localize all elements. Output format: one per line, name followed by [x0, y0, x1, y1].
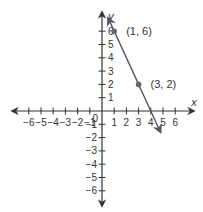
x-axis-label: x	[190, 96, 197, 108]
y-tick-label: −4	[86, 159, 98, 170]
x-tick-label: −4	[47, 117, 59, 128]
y-tick-label: −2	[86, 132, 98, 143]
x-tick-label: −2	[72, 117, 84, 128]
x-tick-label: 2	[124, 117, 130, 128]
x-tick-label: −6	[23, 117, 35, 128]
y-tick-label: 1	[108, 92, 114, 103]
x-tick-label: 6	[172, 117, 178, 128]
y-tick-label: 3	[108, 66, 114, 77]
data-point	[111, 28, 117, 34]
x-tick-label: 4	[148, 117, 154, 128]
chart-svg: −6−5−4−3−2−1123456−6−5−4−3−2−11234560xy(…	[0, 0, 203, 212]
x-tick-label: 1	[111, 117, 117, 128]
y-tick-label: −3	[86, 145, 98, 156]
origin-label: 0	[92, 113, 98, 124]
y-tick-label: 4	[108, 52, 114, 63]
x-tick-label: −5	[35, 117, 47, 128]
y-tick-label: −5	[86, 172, 98, 183]
data-point-label: (1, 6)	[126, 25, 152, 37]
coordinate-graph: −6−5−4−3−2−1123456−6−5−4−3−2−11234560xy(…	[0, 0, 203, 212]
data-point-label: (3, 2)	[151, 78, 177, 90]
data-point	[136, 82, 142, 88]
y-tick-label: −6	[86, 185, 98, 196]
x-tick-label: 3	[136, 117, 142, 128]
y-tick-label: 5	[108, 39, 114, 50]
x-tick-label: −3	[60, 117, 72, 128]
x-tick-label: 5	[160, 117, 166, 128]
y-tick-label: 2	[108, 79, 114, 90]
